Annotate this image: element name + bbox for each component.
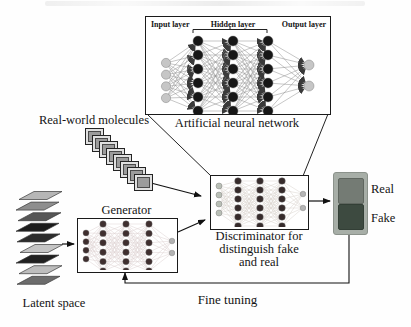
discriminator-network — [211, 176, 306, 227]
real-swatch — [338, 178, 364, 204]
latent-layer — [17, 276, 60, 284]
ann-network — [146, 17, 330, 114]
ann-caption: Artificial neural network — [145, 116, 329, 131]
fake-swatch — [338, 204, 364, 230]
latent-layer — [19, 192, 62, 200]
discriminator-caption: Discriminator for distinguish fake and r… — [203, 230, 315, 269]
latent-layer — [19, 266, 62, 274]
latent-layer — [20, 245, 63, 253]
molecules-label: Real-world molecules — [28, 113, 160, 128]
discriminator-caption-line3: and real — [203, 256, 315, 269]
discriminator-box — [210, 175, 309, 230]
fine-tuning-label: Fine tuning — [170, 292, 285, 308]
generator-box — [77, 218, 178, 273]
latent-stack — [14, 190, 84, 292]
ann-output-layer-label: Output layer — [282, 20, 326, 29]
molecule-stack — [85, 128, 160, 196]
figure-canvas: Input layer Hidden layer Output layer Ar… — [0, 0, 411, 327]
molecule-tile — [134, 174, 153, 191]
fake-label: Fake — [371, 211, 395, 226]
latent-layer — [16, 202, 59, 210]
generator-network — [78, 219, 175, 270]
arrow-generator-to-discriminator — [178, 220, 205, 232]
classification-panel — [333, 172, 368, 235]
molecule-tile-inner — [137, 177, 150, 188]
latent-layer — [17, 234, 60, 242]
latent-layer — [16, 223, 59, 231]
ann-input-layer-label: Input layer — [151, 20, 189, 29]
ann-box: Input layer Hidden layer Output layer — [145, 16, 331, 115]
generator-label: Generator — [77, 203, 176, 218]
latent-layer — [18, 213, 61, 221]
real-label: Real — [371, 182, 394, 197]
latent-space-label: Latent space — [12, 296, 96, 311]
ann-hidden-layer-label: Hidden layer — [196, 20, 270, 29]
latent-layer — [16, 255, 59, 263]
